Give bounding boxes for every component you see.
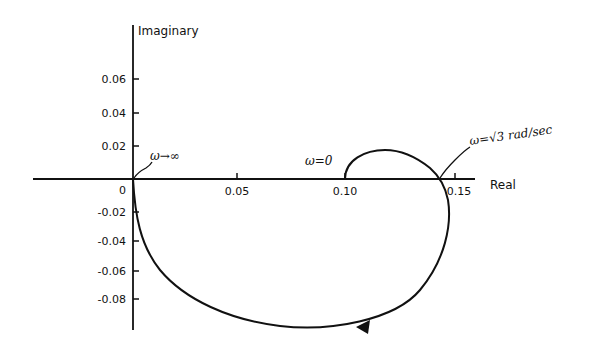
- nyquist-plot: 0.06 0.04 0.02 0 -0.02 -0.04 -0.06 -0.08…: [0, 0, 611, 350]
- y-tick-label: 0.04: [102, 107, 127, 120]
- y-tick-label: -0.04: [98, 235, 126, 248]
- x-tick-label: 0.10: [333, 185, 358, 198]
- origin-label: 0: [119, 184, 126, 197]
- y-tick-label: -0.06: [98, 265, 126, 278]
- y-tick-label: -0.02: [98, 206, 126, 219]
- x-axis-label: Real: [490, 178, 516, 192]
- y-tick-label: -0.08: [98, 293, 126, 306]
- nyquist-curve: [133, 150, 449, 328]
- y-axis-label: Imaginary: [138, 24, 199, 38]
- omega-infinity-leader: [134, 162, 152, 178]
- x-tick-label: 0.15: [447, 185, 472, 198]
- omega-zero-label: ω=0: [305, 154, 333, 168]
- y-tick-label: 0.06: [102, 73, 127, 86]
- omega-crossing-label: ω=√3 rad/sec: [468, 122, 553, 148]
- y-tick-label: 0.02: [102, 140, 127, 153]
- x-tick-label: 0.05: [225, 185, 250, 198]
- omega-infinity-label: ω→∞: [150, 149, 180, 163]
